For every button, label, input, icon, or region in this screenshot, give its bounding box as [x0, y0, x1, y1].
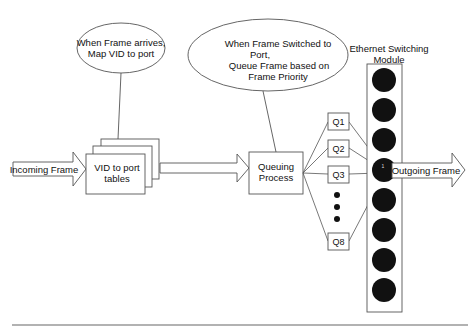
- outgoing-frame-arrow: Outgoing Frame: [392, 153, 465, 187]
- port-8-icon: [372, 68, 396, 92]
- port-3-icon: [372, 248, 396, 272]
- queuing-callout-line-2: Port,: [250, 49, 270, 60]
- vid-callout-line-1: When Frame arrives,: [77, 37, 166, 48]
- port-5-icon: [372, 188, 396, 212]
- vid-tables-line-2: tables: [104, 173, 130, 184]
- incoming-frame-label: Incoming Frame: [10, 164, 79, 175]
- queue-q3-label: Q3: [332, 170, 344, 180]
- queue-q8: Q8: [328, 233, 349, 250]
- port-4-icon: [372, 218, 396, 242]
- vid-to-queuing-arrow: [160, 154, 249, 182]
- outgoing-frame-label: Outgoing Frame: [392, 165, 461, 176]
- queue-q2: Q2: [328, 140, 349, 157]
- port-6-icon: [372, 128, 396, 152]
- active-port-label: 1: [382, 163, 385, 169]
- queuing-process-line-2: Process: [259, 172, 294, 183]
- queue-q3: Q3: [328, 166, 349, 183]
- queuing-process-line-1: Queuing: [258, 161, 294, 172]
- ethernet-switching-diagram: When Frame arrives, Map VID to port When…: [0, 0, 476, 329]
- queue-q1: Q1: [328, 113, 349, 130]
- port-7-icon: [372, 98, 396, 122]
- vid-callout-line-2: Map VID to port: [88, 48, 155, 59]
- module-title-line-2: Module: [373, 54, 404, 65]
- queuing-callout: When Frame Switched to Port, Queue Frame…: [188, 19, 348, 152]
- vid-tables-line-1: VID to port: [94, 162, 140, 173]
- port-2-icon: [372, 278, 396, 302]
- vid-to-port-tables: VID to port tables: [86, 139, 159, 194]
- module-title-line-1: Ethernet Switching: [349, 43, 428, 54]
- queue-q1-label: Q1: [332, 117, 344, 127]
- vid-callout-connector: [118, 73, 121, 139]
- queue-q2-label: Q2: [332, 144, 344, 154]
- queuing-callout-connector: [263, 91, 276, 152]
- queue-fanout-lines: [303, 122, 328, 241]
- queue-ellipsis-dots: [334, 192, 340, 222]
- queuing-callout-line-3: Queue Frame based on: [229, 60, 329, 71]
- queuing-callout-line-1: When Frame Switched to: [225, 38, 332, 49]
- queue-q8-label: Q8: [332, 237, 344, 247]
- incoming-frame-arrow: Incoming Frame: [10, 152, 86, 186]
- vid-mapping-callout: When Frame arrives, Map VID to port: [77, 23, 166, 139]
- queuing-callout-line-4: Frame Priority: [248, 71, 308, 82]
- queuing-process-box: Queuing Process: [249, 152, 303, 194]
